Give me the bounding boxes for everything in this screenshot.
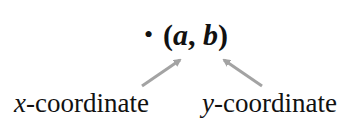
arrow-to-b-icon <box>224 60 262 86</box>
x-var: x <box>14 88 26 118</box>
y-var: y <box>202 88 214 118</box>
x-coordinate-label: x-coordinate <box>14 88 149 119</box>
arrow-to-a-icon <box>142 60 180 86</box>
x-label-text: -coordinate <box>26 88 149 118</box>
y-coordinate-label: y-coordinate <box>202 88 337 119</box>
y-label-text: -coordinate <box>214 88 337 118</box>
